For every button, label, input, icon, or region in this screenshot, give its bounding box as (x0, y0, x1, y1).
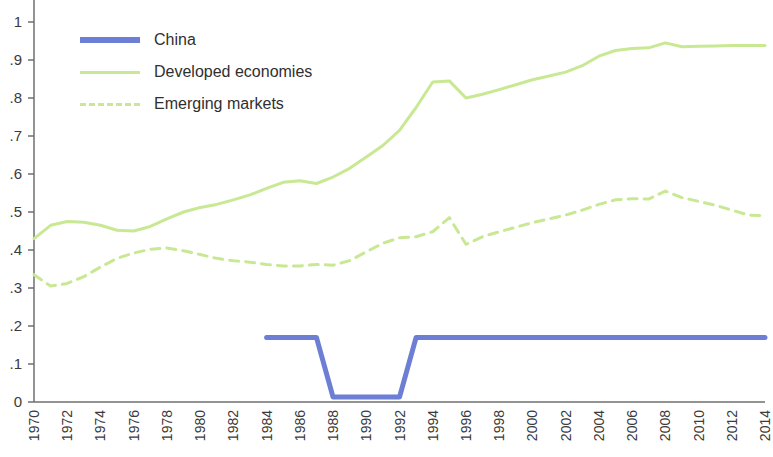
x-axis-tick-label: 1984 (260, 410, 274, 441)
x-axis-tick-label: 1978 (160, 410, 174, 441)
y-axis-tick-label: .6 (0, 166, 22, 181)
x-axis-tick-label: 1988 (326, 410, 340, 441)
y-axis-tick-label: 0 (0, 394, 22, 409)
legend-swatch-icon (80, 37, 140, 43)
y-axis-tick-label: .8 (0, 90, 22, 105)
y-axis-tick-label: .1 (0, 356, 22, 371)
x-axis-tick-label: 1976 (127, 410, 141, 441)
legend-item[interactable]: China (80, 24, 312, 56)
y-axis-tick-label: .3 (0, 280, 22, 295)
chart-legend: ChinaDeveloped economiesEmerging markets (80, 24, 312, 120)
y-axis-tick-label: .5 (0, 204, 22, 219)
x-axis-tick-label: 2000 (525, 410, 539, 441)
x-axis-tick-label: 1970 (27, 410, 41, 441)
legend-swatch-icon (80, 103, 140, 106)
series-line-emerging-markets (34, 191, 765, 286)
x-axis-tick-label: 2010 (692, 410, 706, 441)
x-axis-tick-label: 2006 (625, 410, 639, 441)
legend-label: China (154, 31, 196, 49)
x-axis-tick-label: 1998 (492, 410, 506, 441)
x-axis-tick-label: 2004 (592, 410, 606, 441)
series-line-china (267, 337, 765, 397)
x-axis-tick-label: 1992 (393, 410, 407, 441)
x-axis-tick-label: 2014 (758, 410, 772, 441)
legend-item[interactable]: Emerging markets (80, 88, 312, 120)
legend-label: Emerging markets (154, 95, 284, 113)
y-axis-tick-label: .7 (0, 128, 22, 143)
legend-label: Developed economies (154, 63, 312, 81)
legend-item[interactable]: Developed economies (80, 56, 312, 88)
x-axis-tick-label: 1986 (293, 410, 307, 441)
legend-swatch-icon (80, 71, 140, 74)
x-axis-tick-label: 2008 (658, 410, 672, 441)
x-axis-tick-label: 1996 (459, 410, 473, 441)
x-axis-tick-label: 1972 (60, 410, 74, 441)
y-axis-tick-label: .4 (0, 242, 22, 257)
x-axis-tick-label: 1982 (226, 410, 240, 441)
chart-container: 0.1.2.3.4.5.6.7.8.91 1970197219741976197… (0, 0, 773, 457)
y-axis-tick-label: .9 (0, 52, 22, 67)
y-axis-tick-label: .2 (0, 318, 22, 333)
x-axis-tick-label: 2002 (559, 410, 573, 441)
x-axis-tick-label: 1980 (193, 410, 207, 441)
y-axis-tick-label: 1 (0, 14, 22, 29)
x-axis-tick-label: 2012 (725, 410, 739, 441)
x-axis-tick-label: 1994 (426, 410, 440, 441)
x-axis-tick-label: 1990 (359, 410, 373, 441)
x-axis-tick-label: 1974 (93, 410, 107, 441)
